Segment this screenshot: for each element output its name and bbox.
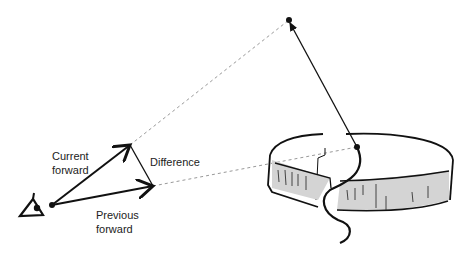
target-point [286, 17, 292, 23]
projected-difference-arrow [290, 23, 357, 147]
diagram-canvas: Current forward Difference Previous forw… [0, 0, 469, 254]
eye-origin-point [49, 202, 55, 208]
difference-label: Difference [150, 155, 200, 169]
previous-forward-arrow [52, 186, 153, 205]
previous-forward-label: Previous forward [96, 208, 139, 236]
cheese-wheel-icon [268, 134, 453, 243]
diagram-graphic [0, 0, 469, 254]
eye-icon [20, 193, 43, 216]
surface-point [354, 144, 360, 150]
current-forward-label: Current forward [52, 149, 89, 177]
dashed-ray-current [130, 20, 289, 145]
